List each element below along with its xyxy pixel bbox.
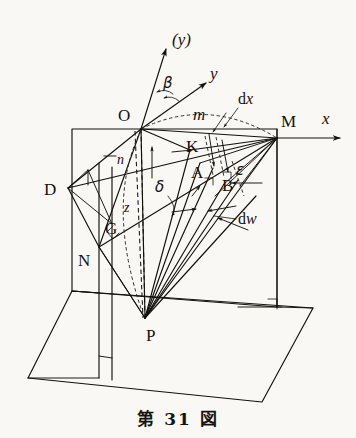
- construction-lines: [68, 49, 340, 318]
- right-angle-marks: [107, 172, 277, 309]
- label-angle-beta: β: [162, 74, 173, 92]
- figure-caption: 第 31 図: [0, 405, 356, 430]
- label-point-D: D: [44, 180, 56, 199]
- label-segment-n: n: [117, 152, 124, 167]
- label-point-K: K: [186, 137, 199, 156]
- label-point-A: A: [191, 163, 204, 182]
- figure-diagram: O M D N G P K A B x y (y) β δ ε m n z: [0, 0, 356, 438]
- label-angle-delta: δ: [155, 178, 164, 196]
- label-angle-epsilon: ε: [236, 161, 244, 179]
- base-right-fold: [277, 129, 313, 308]
- label-segment-z: z: [123, 200, 130, 215]
- label-dx-var: x: [245, 90, 253, 107]
- label-dw-d: d: [238, 210, 246, 227]
- label-point-G: G: [105, 219, 117, 238]
- label-point-O: O: [118, 106, 130, 125]
- label-dw: dw: [238, 210, 257, 227]
- differential-labels: dx dw: [238, 90, 257, 227]
- label-point-B: B: [222, 176, 233, 195]
- label-axis-x: x: [321, 109, 330, 128]
- label-segment-m: m: [193, 105, 205, 124]
- label-point-M: M: [281, 112, 296, 131]
- base-plane: [28, 291, 313, 402]
- label-point-P: P: [146, 326, 155, 345]
- label-dx: dx: [238, 90, 253, 107]
- label-axis-y: y: [208, 64, 218, 83]
- figure-page: O M D N G P K A B x y (y) β δ ε m n z: [0, 0, 356, 438]
- label-point-N: N: [78, 251, 90, 270]
- label-axis-y-paren: (y): [172, 30, 191, 49]
- label-dw-var: w: [246, 210, 257, 227]
- label-dx-d: d: [238, 90, 246, 107]
